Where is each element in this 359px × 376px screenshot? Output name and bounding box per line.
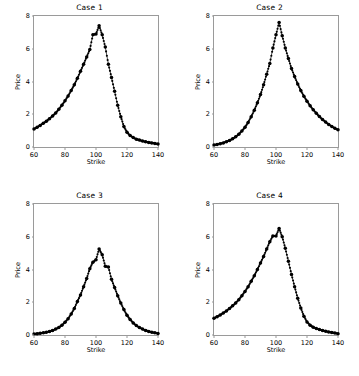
data-point-marker [100, 33, 104, 37]
data-point-marker [295, 291, 297, 293]
series-plot [34, 204, 158, 335]
data-point-marker [222, 311, 226, 315]
y-tick-mark [212, 16, 215, 17]
data-point-marker [290, 273, 294, 277]
y-axis-label: Price [14, 262, 22, 278]
x-tick-mark [127, 335, 128, 338]
data-point-marker [79, 293, 83, 297]
data-point-marker [330, 125, 334, 129]
data-point-marker [84, 60, 86, 62]
data-point-marker [318, 328, 322, 332]
data-point-marker [302, 314, 306, 318]
data-point-marker [105, 50, 107, 52]
data-point-marker [100, 253, 104, 257]
series-line [214, 229, 338, 334]
y-tick-mark [212, 302, 215, 303]
data-point-marker [66, 317, 70, 321]
data-point-marker [51, 114, 55, 118]
data-point-marker [295, 79, 297, 81]
y-tick-label: 4 [26, 266, 30, 274]
x-tick-label: 80 [241, 339, 249, 347]
data-point-marker [141, 327, 145, 331]
x-tick-label: 60 [30, 339, 38, 347]
data-point-marker [271, 51, 273, 53]
x-tick-label: 60 [210, 151, 218, 159]
data-point-marker [277, 28, 279, 30]
data-point-marker [259, 93, 263, 97]
subplot-case-2: Case 2 Price Strike 024686080100120140 [180, 0, 359, 188]
data-point-marker [308, 323, 312, 327]
data-point-marker [246, 121, 250, 125]
data-point-marker [131, 136, 135, 140]
y-tick-label: 6 [26, 45, 30, 53]
y-tick-mark [212, 81, 215, 82]
data-point-marker [264, 78, 266, 80]
data-point-marker [125, 131, 129, 135]
data-point-marker [150, 330, 154, 334]
data-point-marker [267, 68, 269, 70]
data-point-marker [94, 258, 98, 262]
data-point-marker [69, 89, 73, 93]
x-tick-mark [34, 335, 35, 338]
data-point-marker [156, 142, 160, 146]
x-tick-mark [245, 335, 246, 338]
data-point-marker [109, 272, 111, 274]
data-point-marker [277, 227, 281, 231]
x-tick-mark [276, 335, 277, 338]
data-point-marker [119, 113, 121, 115]
data-point-marker [243, 126, 247, 130]
data-point-marker [42, 331, 46, 335]
x-tick-label: 80 [61, 339, 69, 347]
data-point-marker [287, 260, 291, 264]
data-point-marker [228, 139, 232, 143]
data-point-marker [96, 256, 98, 258]
data-point-marker [283, 244, 285, 246]
data-point-marker [106, 55, 108, 57]
data-point-marker [231, 304, 235, 308]
data-point-marker [141, 139, 145, 143]
x-tick-label: 140 [152, 151, 164, 159]
y-axis-label: Price [194, 262, 202, 278]
x-tick-mark [276, 147, 277, 150]
data-point-marker [107, 59, 109, 61]
data-point-marker [268, 65, 270, 67]
data-point-marker [274, 33, 278, 37]
data-point-marker [277, 21, 281, 25]
y-tick-label: 2 [206, 298, 210, 306]
data-point-marker [286, 52, 288, 54]
data-point-marker [234, 135, 238, 139]
data-point-marker [333, 127, 337, 131]
data-point-marker [277, 231, 279, 233]
data-point-marker [231, 137, 235, 141]
data-point-marker [82, 285, 86, 289]
data-point-marker [271, 234, 275, 238]
data-point-marker [115, 291, 117, 293]
data-point-marker [112, 83, 114, 85]
data-point-marker [76, 76, 80, 80]
data-point-marker [237, 298, 241, 302]
y-tick-label: 8 [206, 12, 210, 20]
y-tick-mark [32, 114, 35, 115]
data-point-marker [38, 124, 42, 128]
x-tick-mark [158, 335, 159, 338]
data-point-marker [215, 143, 219, 147]
data-point-marker [228, 307, 232, 311]
data-point-marker [135, 137, 139, 141]
subplot-case-1: Case 1 Price Strike 024686080100120140 [0, 0, 179, 188]
data-point-marker [280, 34, 284, 38]
data-point-marker [87, 273, 89, 275]
data-point-marker [282, 38, 284, 40]
data-point-marker [97, 29, 99, 31]
x-tick-label: 140 [332, 339, 344, 347]
data-point-marker [73, 307, 77, 311]
data-point-marker [299, 306, 303, 310]
data-point-marker [274, 37, 276, 39]
data-point-marker [305, 99, 309, 103]
data-point-marker [234, 301, 238, 305]
data-point-marker [38, 332, 42, 336]
figure-canvas: Case 1 Price Strike 024686080100120140 C… [0, 0, 359, 376]
data-point-marker [268, 62, 272, 66]
data-point-marker [113, 87, 115, 89]
x-tick-mark [245, 147, 246, 150]
data-point-marker [287, 257, 289, 259]
